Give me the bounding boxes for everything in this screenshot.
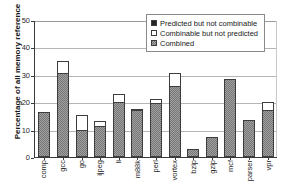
bar-chart: Percentage of all memory reference 01020…	[0, 0, 286, 193]
bar-stack[interactable]	[57, 61, 69, 157]
bar-stack[interactable]	[131, 109, 143, 157]
x-label-slot: mcf	[221, 159, 240, 193]
legend-item-label: Combined	[160, 39, 194, 48]
bar-segment-combined	[262, 110, 274, 157]
x-label-slot: gcc	[53, 159, 72, 193]
bar-segment-combinable-not-predicted	[57, 61, 69, 74]
legend-item[interactable]: Combinable but not predicted	[151, 28, 258, 38]
x-axis-tick-label: comp	[39, 160, 48, 178]
bar-slot	[91, 21, 110, 157]
bar-stack[interactable]	[187, 149, 199, 157]
x-axis-tick-label: vortex	[170, 160, 179, 180]
bar-segment-combinable-not-predicted	[76, 115, 88, 129]
x-label-slot: li	[109, 159, 128, 193]
bar-stack[interactable]	[224, 79, 236, 157]
bar-slot	[109, 21, 128, 157]
x-label-slot: parser	[240, 159, 259, 193]
bar-stack[interactable]	[113, 94, 125, 157]
legend-swatch-icon	[151, 30, 157, 36]
x-axis-tick-label: bzip	[188, 160, 197, 174]
x-label-slot: m88k	[127, 159, 146, 193]
x-label-slot: ijpeg	[90, 159, 109, 193]
bar-stack[interactable]	[150, 99, 162, 157]
bar-segment-combined	[169, 86, 181, 157]
x-label-slot: bzip	[184, 159, 203, 193]
bar-segment-combined	[113, 102, 125, 157]
bar-segment-combinable-not-predicted	[169, 73, 181, 86]
legend-swatch-icon	[151, 40, 157, 46]
bar-slot	[35, 21, 54, 157]
x-axis-tick-label: mcf	[226, 160, 235, 172]
bar-segment-combined	[224, 79, 236, 157]
y-axis-tick-label: 0	[2, 153, 30, 162]
bar-stack[interactable]	[169, 73, 181, 157]
y-axis-tick-label: 40	[2, 43, 30, 52]
x-axis-tick-labels: compgccgoijpeglim88kperlvortexbzipgzipmc…	[34, 159, 277, 193]
x-label-slot: vpr	[258, 159, 277, 193]
bar-segment-combined	[57, 73, 69, 157]
x-label-slot: gzip	[202, 159, 221, 193]
x-label-slot: go	[71, 159, 90, 193]
legend-item-label: Predicted but not combinable	[160, 19, 257, 28]
legend-item[interactable]: Combined	[151, 38, 258, 48]
bar-segment-combinable-not-predicted	[262, 102, 274, 110]
y-axis-tick-label: 30	[2, 71, 30, 80]
y-axis-tick-label: 20	[2, 98, 30, 107]
chart-legend: Predicted but not combinableCombinable b…	[146, 14, 265, 52]
bar-segment-combined	[206, 137, 218, 157]
x-axis-tick-label: m88k	[132, 160, 141, 178]
x-axis-tick-label: parser	[244, 160, 253, 181]
bar-slot	[128, 21, 147, 157]
bar-segment-combined	[38, 112, 50, 157]
bar-segment-combinable-not-predicted	[113, 94, 125, 102]
x-axis-tick-label: perl	[151, 160, 160, 173]
bar-stack[interactable]	[243, 120, 255, 157]
y-axis-tick-label: 10	[2, 126, 30, 135]
bar-stack[interactable]	[94, 121, 106, 157]
bar-stack[interactable]	[262, 102, 274, 157]
x-axis-tick-label: vpr	[263, 160, 272, 170]
bar-stack[interactable]	[206, 137, 218, 157]
bar-segment-combined	[94, 126, 106, 158]
bar-segment-combined	[76, 130, 88, 157]
legend-swatch-icon	[151, 20, 157, 26]
legend-item[interactable]: Predicted but not combinable	[151, 18, 258, 28]
x-axis-tick-label: li	[114, 160, 123, 163]
bar-stack[interactable]	[76, 115, 88, 157]
bar-segment-combined	[243, 120, 255, 157]
x-axis-tick-label: ijpeg	[95, 160, 104, 176]
x-axis-tick-label: gcc	[58, 160, 67, 172]
bar-stack[interactable]	[38, 112, 50, 157]
bar-segment-combined	[131, 110, 143, 157]
bar-slot	[72, 21, 91, 157]
bar-segment-combined	[187, 149, 199, 157]
legend-item-label: Combinable but not predicted	[160, 29, 258, 38]
x-label-slot: vortex	[165, 159, 184, 193]
x-axis-tick-label: gzip	[207, 160, 216, 174]
x-axis-tick-label: go	[76, 160, 85, 168]
x-label-slot: perl	[146, 159, 165, 193]
bar-segment-combined	[150, 103, 162, 157]
y-axis-tick-label: 50	[2, 16, 30, 25]
x-label-slot: comp	[34, 159, 53, 193]
bar-slot	[54, 21, 73, 157]
